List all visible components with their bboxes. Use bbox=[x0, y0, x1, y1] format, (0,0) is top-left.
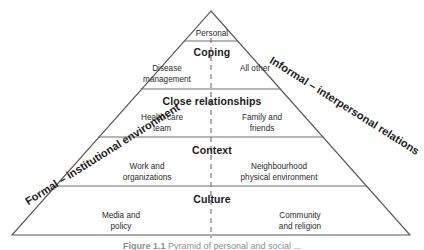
figure-caption: Figure 1.1 Pyramid of personal and socia… bbox=[0, 241, 424, 250]
figure-caption-text: Pyramid of personal and social ... bbox=[168, 241, 301, 250]
tier-title-close-relationships: Close relationships bbox=[0, 96, 424, 108]
tier-title-context: Context bbox=[0, 145, 424, 157]
figure-canvas: Personal Coping Disease management All o… bbox=[0, 0, 424, 250]
tier-title-coping: Coping bbox=[0, 47, 424, 59]
apex-label-text: Personal bbox=[196, 29, 228, 38]
tier-coping-left-cell: Disease management bbox=[131, 64, 203, 85]
tier-context-left-cell: Work and organizations bbox=[102, 162, 192, 183]
tier-culture-right-cell: Community and religion bbox=[254, 211, 346, 232]
tier-context-right-cell: Neighbourhood physical environment bbox=[222, 162, 336, 183]
figure-caption-number: Figure 1.1 bbox=[123, 241, 166, 250]
apex-cell-personal: Personal bbox=[0, 29, 424, 38]
tier-title-culture: Culture bbox=[0, 194, 424, 206]
tier-culture-left-cell: Media and policy bbox=[78, 211, 164, 232]
tier-close-relationships-right-cell: Family and friends bbox=[222, 113, 302, 134]
